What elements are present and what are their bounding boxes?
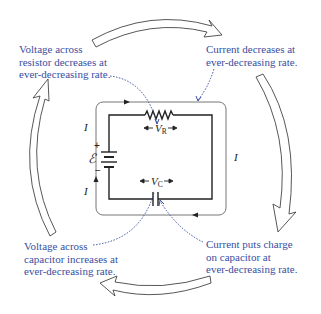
cycle-arrow-left bbox=[30, 79, 56, 236]
current-label-right: I bbox=[233, 151, 239, 163]
current-label-left-top: I bbox=[83, 121, 89, 133]
current-arrow-bottom-icon bbox=[192, 213, 198, 218]
emf-label: ℰ bbox=[88, 151, 97, 166]
current-label-left-bottom: I bbox=[83, 185, 89, 197]
caption-current-charge: Current puts charge on capacitor at ever… bbox=[206, 238, 297, 276]
resistor bbox=[145, 111, 173, 119]
caption-capacitor-voltage: Voltage across capacitor increases at ev… bbox=[24, 240, 118, 278]
battery bbox=[101, 150, 117, 170]
vc-label: VC bbox=[151, 175, 163, 189]
cycle-arrow-top bbox=[92, 20, 222, 47]
caption-resistor-voltage: Voltage across resistor decreases at eve… bbox=[19, 43, 110, 81]
emf-plus-label: + bbox=[94, 140, 100, 151]
current-loop bbox=[96, 102, 226, 215]
caption-current-decreases: Current decreases at ever-decreasing rat… bbox=[206, 43, 297, 68]
cycle-arrow-bottom bbox=[100, 276, 211, 296]
current-arrow-top-icon bbox=[124, 100, 130, 105]
current-arrow-left-icon bbox=[94, 176, 99, 182]
cycle-arrow-right bbox=[256, 74, 296, 232]
emf-minus-label: − bbox=[95, 165, 101, 176]
